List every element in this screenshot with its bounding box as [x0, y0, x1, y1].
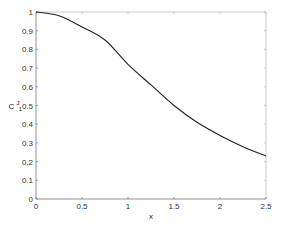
- y-tick-label: 0.5: [22, 102, 34, 111]
- y-tick-label: 0.3: [22, 139, 34, 148]
- x-axis-label: x: [149, 212, 153, 221]
- line-chart: 00.10.20.30.40.50.60.70.80.91 00.511.522…: [0, 0, 285, 227]
- y-tick-label: 0.6: [22, 83, 34, 92]
- y-axis-label-base: C: [8, 102, 14, 111]
- x-tick-label: 2: [218, 202, 223, 211]
- y-tick-label: 0.9: [22, 27, 34, 36]
- y-tick-label: 1: [29, 8, 34, 17]
- x-tick-label: 0: [34, 202, 39, 211]
- x-tick-label: 1.5: [168, 202, 180, 211]
- y-tick-label: 0.4: [22, 120, 34, 129]
- x-tick-label: 1: [126, 202, 131, 211]
- y-tick-label: 0.8: [22, 45, 34, 54]
- x-tick-label: 0.5: [76, 202, 88, 211]
- y-tick-label: 0.7: [22, 64, 34, 73]
- chart-background: [0, 0, 285, 227]
- y-tick-label: 0.1: [22, 176, 34, 185]
- y-tick-label: 0.2: [22, 158, 34, 167]
- x-tick-label: 2.5: [260, 202, 272, 211]
